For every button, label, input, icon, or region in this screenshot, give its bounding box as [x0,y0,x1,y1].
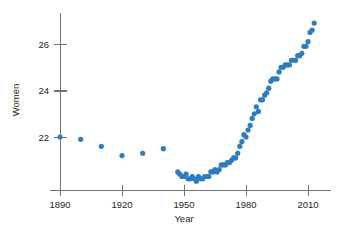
data-point [303,44,308,49]
data-point [256,109,261,114]
data-point [99,144,104,149]
data-point [310,27,315,32]
data-point [243,134,248,139]
data-point [312,20,317,25]
y-axis-title: Women [10,84,21,117]
data-point [287,62,292,67]
x-tick-label: 2010 [297,199,318,210]
data-point [140,151,145,156]
data-point [161,146,166,151]
data-point [293,58,298,63]
data-point [245,127,250,132]
scatter-chart-figure: 222426 18901920195019802010 Year Women [0,0,337,235]
data-points-layer [57,20,316,183]
data-point [233,155,238,160]
data-point [183,172,188,177]
x-tick-label: 1890 [49,199,70,210]
y-tick-label: 24 [38,85,49,96]
y-tick-label: 26 [38,39,49,50]
data-point [217,167,222,172]
x-axis-ticks: 18901920195019802010 [49,185,318,210]
data-point [57,134,62,139]
data-point [264,90,269,95]
data-point [266,86,271,91]
data-point [299,51,304,56]
x-tick-label: 1980 [235,199,256,210]
y-tick-label: 22 [38,132,49,143]
data-point [119,153,124,158]
plot-svg: 222426 18901920195019802010 Year Women [0,0,337,235]
data-point [260,97,265,102]
data-point [237,144,242,149]
data-point [250,116,255,121]
data-point [248,123,253,128]
data-point [254,104,259,109]
x-tick-label: 1950 [173,199,194,210]
data-point [206,174,211,179]
x-tick-label: 1920 [111,199,132,210]
data-point [239,139,244,144]
data-point [78,137,83,142]
data-point [305,39,310,44]
data-point [274,76,279,81]
data-point [276,69,281,74]
x-axis-title: Year [174,213,193,224]
data-point [235,151,240,156]
y-axis-ticks: 222426 [38,39,67,143]
